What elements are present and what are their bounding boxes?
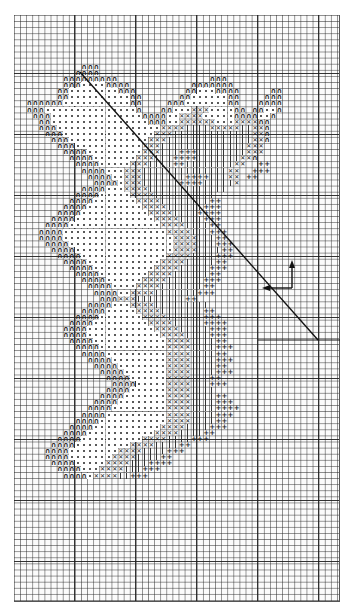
diagonal-reference-line — [80, 72, 318, 340]
orientation-arrow-icon — [262, 260, 295, 291]
reference-overlay — [0, 0, 347, 610]
